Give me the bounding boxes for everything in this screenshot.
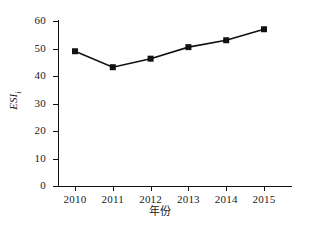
data-point-marker — [110, 64, 116, 70]
data-point-marker — [148, 56, 154, 62]
data-point-marker — [72, 48, 78, 54]
data-point-marker — [261, 26, 267, 32]
series-markers — [72, 26, 267, 70]
series-line-esi — [75, 29, 264, 67]
chart-container: ESIi 0102030405060 201020112012201320142… — [0, 0, 319, 230]
x-axis-title: 年份 — [0, 206, 319, 218]
data-point-marker — [185, 44, 191, 50]
plot-area — [0, 0, 319, 230]
data-point-marker — [223, 37, 229, 43]
